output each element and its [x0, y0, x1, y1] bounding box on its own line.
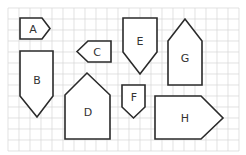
shape-a: A [20, 18, 50, 39]
shape-e: E [123, 18, 157, 74]
shape-e-label: E [137, 35, 144, 48]
shape-a-label: A [29, 23, 37, 36]
shape-d-label: D [84, 106, 92, 119]
shape-c-label: C [93, 46, 101, 59]
shape-d: D [65, 73, 110, 139]
shapes-diagram: A B C D E F G H [0, 0, 246, 155]
shapes-layer: A B C D E F G H [20, 18, 223, 139]
shape-c: C [77, 41, 111, 62]
shape-h: H [155, 96, 223, 139]
shape-g-label: G [181, 52, 190, 65]
shape-h-label: H [181, 112, 189, 125]
shape-f: F [122, 85, 145, 118]
shape-b-label: B [33, 74, 41, 87]
shape-f-label: F [131, 91, 137, 104]
